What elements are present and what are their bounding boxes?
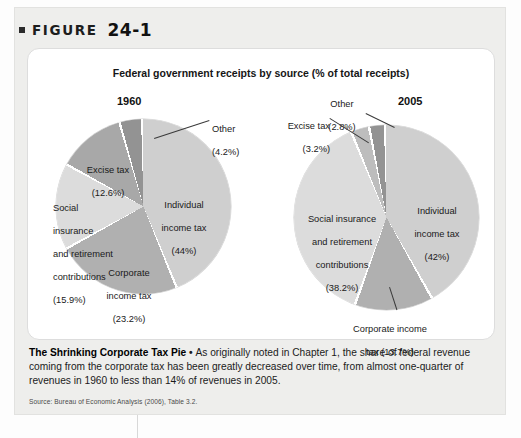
figure-caption: The Shrinking Corporate Tax Pie • As ori… [29,346,491,389]
year-label-2005: 2005 [398,95,422,107]
caption-title: The Shrinking Corporate Tax Pie [29,347,186,358]
source-note: Source: Bureau of Economic Analysis (200… [29,398,197,405]
page-margin-rule [137,414,138,438]
figure-number: 24-1 [108,20,153,40]
chart-title: Federal government receipts by source (%… [28,67,494,79]
chart-card: Federal government receipts by source (%… [27,48,495,340]
pie-chart-1960: 1960 Individual income tax (44%) Corpora… [42,91,262,329]
slice-label-excise-tax-1960: Excise tax (12.6%) [70,154,146,211]
figure-label: FIGURE [32,22,98,38]
slice-label-other-2005: Other (2.8%) [314,88,370,145]
slice-label-individual-income-tax-2005: Individual income tax (42%) [400,195,474,275]
year-label-1960: 1960 [117,95,141,107]
figure-header: FIGURE 24-1 [19,20,152,40]
square-bullet-icon [19,27,25,33]
pie-chart-2005: 2005 Individual income tax (42%) Corpora… [274,87,494,331]
slice-label-social-insurance-2005: Social insurance and retirement contribu… [292,203,392,306]
